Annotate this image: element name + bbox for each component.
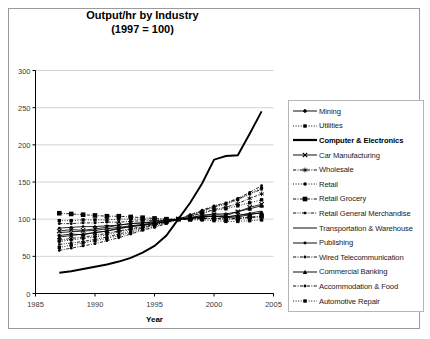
marker-circle: [303, 183, 306, 186]
marker-small-square: [70, 242, 72, 244]
y-tick-label-200: 200: [18, 141, 31, 150]
x-tick-label-1985: 1985: [27, 300, 44, 309]
marker-dot: [260, 184, 263, 187]
legend-label: Wired Telecommunication: [319, 253, 404, 262]
y-tick-label-250: 250: [18, 104, 31, 113]
legend-item-automotive-repair[interactable]: Automotive Repair: [291, 294, 421, 309]
legend-label: Automotive Repair: [319, 297, 380, 306]
legend-item-wholesale[interactable]: Wholesale: [291, 162, 421, 177]
series-computer-electronics: [59, 111, 261, 272]
legend-label: Wholesale: [319, 165, 354, 174]
marker-square: [200, 218, 203, 221]
legend-item-accommodation-food[interactable]: Accommodation & Food: [291, 279, 421, 294]
marker-square: [260, 218, 263, 221]
x-tick-label-2005: 2005: [265, 300, 282, 309]
marker-square: [93, 218, 96, 221]
marker-square: [81, 218, 84, 221]
y-tick-label-50: 50: [22, 252, 30, 261]
legend-label: Mining: [319, 107, 341, 116]
y-tick-label-150: 150: [18, 178, 31, 187]
marker-square: [177, 217, 180, 220]
legend-item-mining[interactable]: Mining: [291, 104, 421, 119]
series-car-manufacturing: [57, 202, 264, 233]
legend-key-icon: [291, 295, 319, 307]
y-tick-label-100: 100: [18, 215, 31, 224]
marker-square: [117, 217, 120, 220]
marker-square-bold: [105, 214, 110, 219]
y-tick-label-300: 300: [18, 67, 31, 76]
marker-star: [248, 196, 252, 201]
marker-dot: [248, 213, 251, 216]
marker-square: [189, 218, 192, 221]
marker-square-bold: [303, 197, 308, 202]
legend-key-icon: [291, 178, 319, 190]
legend-key-icon: [291, 280, 319, 292]
marker-dot: [141, 229, 144, 232]
marker-dot: [58, 222, 61, 225]
legend-label: Commercial Banking: [319, 267, 387, 276]
marker-square: [212, 219, 215, 222]
marker-square: [58, 219, 61, 222]
marker-small-square: [260, 188, 262, 190]
legend-item-car-manufacturing[interactable]: Car Manufacturing: [291, 148, 421, 163]
marker-square: [260, 198, 263, 201]
legend-key-icon: [291, 222, 319, 234]
legend-key-icon: [291, 266, 319, 278]
marker-dot: [58, 249, 61, 252]
marker-square: [58, 246, 61, 249]
marker-circle: [81, 237, 84, 240]
legend-item-publishing[interactable]: Publishing: [291, 235, 421, 250]
marker-dot: [94, 221, 97, 224]
marker-small-square: [94, 238, 96, 240]
marker-square: [70, 219, 73, 222]
legend-item-transportation-warehouse[interactable]: Transportation & Warehouse: [291, 221, 421, 236]
marker-small-square: [106, 236, 108, 238]
marker-dot: [106, 224, 109, 227]
marker-small-square: [118, 233, 120, 235]
x-tick-label-1990: 1990: [87, 300, 104, 309]
marker-dot: [117, 236, 120, 239]
marker-dot: [248, 216, 251, 219]
marker-dot: [58, 227, 61, 230]
marker-small-square: [130, 230, 132, 232]
marker-small-square: [304, 212, 306, 214]
marker-small-square: [82, 240, 84, 242]
x-axis-title: Year: [146, 315, 163, 324]
marker-dot: [129, 233, 132, 236]
legend-item-retail-grocery[interactable]: Retail Grocery: [291, 192, 421, 207]
legend-label: Computer & Electronics: [319, 136, 403, 145]
marker-dot: [304, 241, 307, 244]
chart-legend: MiningUtilitiesComputer & ElectronicsCar…: [288, 100, 424, 312]
legend-item-computer-electronics[interactable]: Computer & Electronics: [291, 133, 421, 148]
legend-key-icon: [291, 207, 319, 219]
legend-label: Retail General Merchandise: [319, 209, 411, 218]
marker-dot: [201, 209, 204, 212]
marker-small-square: [58, 243, 60, 245]
marker-dot: [248, 191, 251, 194]
marker-square-bold: [57, 211, 62, 216]
marker-dot: [82, 225, 85, 228]
marker-star: [303, 167, 307, 172]
marker-square-bold: [81, 212, 86, 217]
legend-key-icon: [291, 237, 319, 249]
marker-dot: [82, 221, 85, 224]
marker-star: [259, 191, 263, 196]
legend-key-icon: [291, 105, 319, 117]
legend-item-utilities[interactable]: Utilities: [291, 119, 421, 134]
legend-item-retail-general-merchandise[interactable]: Retail General Merchandise: [291, 206, 421, 221]
legend-item-retail[interactable]: Retail: [291, 177, 421, 192]
legend-item-wired-telecommunication[interactable]: Wired Telecommunication: [291, 250, 421, 265]
marker-square: [224, 220, 227, 223]
legend-key-icon: [291, 120, 319, 132]
marker-dot: [117, 224, 120, 227]
marker-dot: [304, 256, 307, 259]
legend-label: Retail: [319, 180, 338, 189]
legend-item-commercial-banking[interactable]: Commercial Banking: [291, 265, 421, 280]
legend-key-icon: [291, 164, 319, 176]
marker-dot: [260, 216, 263, 219]
legend-label: Car Manufacturing: [319, 151, 380, 160]
marker-square: [141, 217, 144, 220]
marker-square: [303, 299, 306, 302]
marker-square: [248, 201, 251, 204]
legend-label: Utilities: [319, 121, 343, 130]
